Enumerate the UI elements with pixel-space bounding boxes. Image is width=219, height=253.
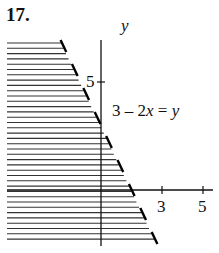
boundary-line-dashed <box>61 40 158 244</box>
equation-constant: 3 – 2 <box>112 101 146 120</box>
y-tick-label-5: 5 <box>86 72 95 92</box>
problem-number: 17. <box>6 4 30 26</box>
x-tick-label-5: 5 <box>198 197 207 217</box>
equation-x: x <box>146 101 154 120</box>
equation-label: 3 – 2x = y <box>112 101 179 121</box>
shaded-region-hatching <box>7 43 154 239</box>
x-tick-label-3: 3 <box>157 197 166 217</box>
inequality-graph <box>0 0 219 253</box>
equation-equals: = <box>154 101 172 120</box>
equation-y: y <box>172 101 180 120</box>
y-axis-label: y <box>121 16 129 36</box>
